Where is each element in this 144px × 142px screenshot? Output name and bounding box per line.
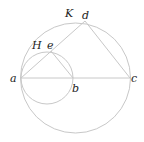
label-H: H [31, 39, 42, 52]
label-a: a [10, 72, 17, 85]
label-d: d [82, 9, 89, 22]
label-c: c [131, 72, 137, 85]
label-K: K [64, 7, 74, 20]
geometry-diagram: a b c d e H K [0, 0, 144, 142]
label-e: e [47, 39, 54, 52]
label-b: b [72, 82, 79, 95]
segment-dc [85, 21, 130, 78]
